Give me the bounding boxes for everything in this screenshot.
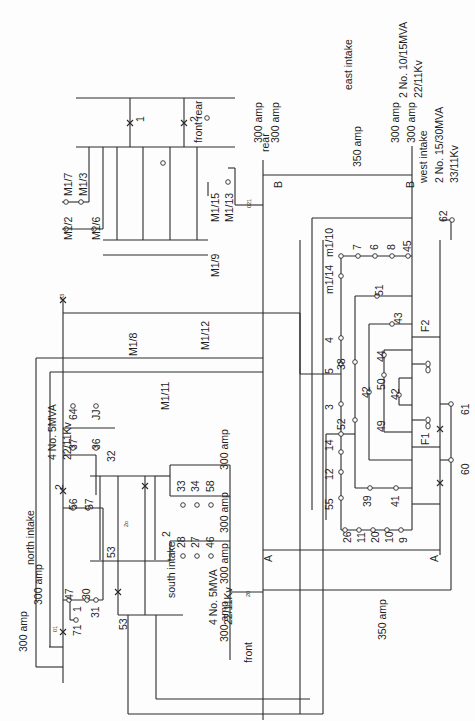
label-sw-20: 20 bbox=[246, 591, 252, 597]
connection-node bbox=[390, 254, 395, 259]
label-amp350-bottom: 350 amp bbox=[377, 599, 388, 640]
label-n62: 62 bbox=[438, 210, 449, 222]
label-m1-2: M1/2 bbox=[63, 217, 74, 240]
label-nf1: F1 bbox=[420, 433, 431, 445]
connection-node bbox=[79, 200, 84, 205]
label-sw-21: 021 bbox=[247, 199, 253, 208]
connection-node bbox=[339, 470, 344, 475]
label-n37: 37 bbox=[68, 438, 79, 450]
connection-node bbox=[394, 486, 399, 491]
label-n30: 30 bbox=[81, 588, 92, 600]
label-n20: 20 bbox=[370, 531, 381, 543]
label-n47: 47 bbox=[64, 588, 75, 600]
label-m1-13: M1/13 bbox=[224, 193, 235, 222]
label-amp350-top: 350 amp bbox=[352, 126, 363, 167]
connection-node bbox=[406, 254, 411, 259]
label-n50: 50 bbox=[376, 378, 387, 390]
label-n5: 5 bbox=[324, 368, 335, 374]
connection-node bbox=[339, 254, 344, 259]
label-amp300-s1: 300 amp bbox=[219, 429, 230, 470]
label-west-voltage: 33/11Kv bbox=[449, 145, 460, 183]
connection-node bbox=[449, 402, 454, 407]
connection-node bbox=[449, 458, 454, 463]
connection-node bbox=[64, 200, 69, 205]
label-n44: 44 bbox=[376, 350, 387, 362]
label-m1-12: M1/12 bbox=[200, 321, 211, 350]
connection-nodes bbox=[64, 116, 455, 623]
label-n31: 31 bbox=[90, 606, 101, 618]
label-n53-b: 53 bbox=[118, 618, 129, 630]
label-n4: 4 bbox=[324, 337, 335, 343]
connection-node bbox=[353, 360, 358, 365]
label-n42-a: 42 bbox=[361, 386, 372, 398]
connection-node bbox=[450, 218, 455, 223]
fuse-symbols bbox=[426, 361, 430, 429]
label-n7: 7 bbox=[352, 244, 363, 250]
label-n9: 9 bbox=[398, 537, 409, 543]
label-east-300a-3: 300 amp bbox=[390, 102, 401, 143]
label-south-intake: south intake bbox=[166, 541, 177, 598]
label-n61: 61 bbox=[460, 403, 471, 415]
label-njj: JJ bbox=[91, 410, 102, 421]
label-n14: 14 bbox=[324, 439, 335, 451]
label-n39: 39 bbox=[362, 495, 373, 507]
connection-node bbox=[181, 503, 186, 508]
connection-node bbox=[339, 432, 344, 437]
connection-node bbox=[74, 618, 79, 623]
connection-node bbox=[209, 554, 214, 559]
connection-node bbox=[382, 373, 387, 378]
label-amp300-s3: 300 amp bbox=[219, 543, 230, 584]
label-east-300a-4: 300 amp bbox=[406, 102, 417, 143]
label-east-rating: 2 No. 10/15MVA bbox=[398, 22, 409, 98]
connection-node bbox=[181, 554, 186, 559]
label-n43: 43 bbox=[393, 312, 404, 324]
label-rear: rear bbox=[260, 133, 271, 152]
label-sw-2: 2 bbox=[189, 116, 200, 122]
label-n8: 8 bbox=[386, 244, 397, 250]
label-a-left: A bbox=[263, 555, 274, 562]
connection-node bbox=[209, 503, 214, 508]
connection-node bbox=[339, 336, 344, 341]
connection-node bbox=[373, 254, 378, 259]
label-front: front bbox=[243, 642, 254, 663]
label-north-intake: north intake bbox=[25, 510, 36, 565]
connection-node bbox=[356, 254, 361, 259]
connection-node bbox=[339, 450, 344, 455]
label-n6: 6 bbox=[369, 244, 380, 250]
connection-node bbox=[353, 418, 358, 423]
label-n2-south: 2 bbox=[161, 531, 172, 537]
label-north-rating: 4 No. 5MVA bbox=[47, 404, 58, 460]
label-n10: 10 bbox=[384, 531, 395, 543]
label-n71: 71 bbox=[72, 624, 83, 636]
label-n41: 41 bbox=[390, 495, 401, 507]
north-intake-feeders bbox=[36, 300, 323, 714]
label-n64: 64 bbox=[68, 408, 79, 420]
label-n45: 45 bbox=[402, 240, 413, 252]
label-east-voltage: 22/11Kv bbox=[413, 60, 424, 98]
label-n52: 52 bbox=[336, 418, 347, 430]
label-n33: 33 bbox=[176, 480, 187, 492]
label-m1-8: M1/8 bbox=[128, 333, 139, 356]
label-east-300a-2: 300 amp bbox=[270, 102, 281, 143]
label-n51: 51 bbox=[374, 284, 385, 296]
label-sw-2o: 2o bbox=[124, 521, 130, 527]
label-nf2: F2 bbox=[420, 320, 431, 332]
connection-node bbox=[368, 486, 373, 491]
label-n1: 1 bbox=[72, 606, 83, 612]
label-sw-3: 03 bbox=[60, 294, 66, 300]
label-m1-14: m1/14 bbox=[324, 265, 335, 294]
label-south-voltage: 22/11Kv bbox=[223, 587, 234, 625]
label-n58: 58 bbox=[205, 480, 216, 492]
label-n26: 26 bbox=[342, 531, 353, 543]
label-n2-top: 2 bbox=[54, 484, 65, 490]
label-n38: 38 bbox=[336, 358, 347, 370]
label-n3: 3 bbox=[324, 404, 335, 410]
label-m1-7: M1/7 bbox=[63, 173, 74, 196]
label-m1-3: M1/3 bbox=[78, 173, 89, 196]
label-n57: 57 bbox=[84, 498, 95, 510]
label-n49: 49 bbox=[376, 420, 387, 432]
label-amp300-n2: 300 amp bbox=[18, 611, 29, 652]
label-south-rating: 4 No. 5MVA bbox=[208, 569, 219, 625]
label-west-intake: west intake bbox=[418, 130, 429, 183]
label-n46: 46 bbox=[205, 536, 216, 548]
